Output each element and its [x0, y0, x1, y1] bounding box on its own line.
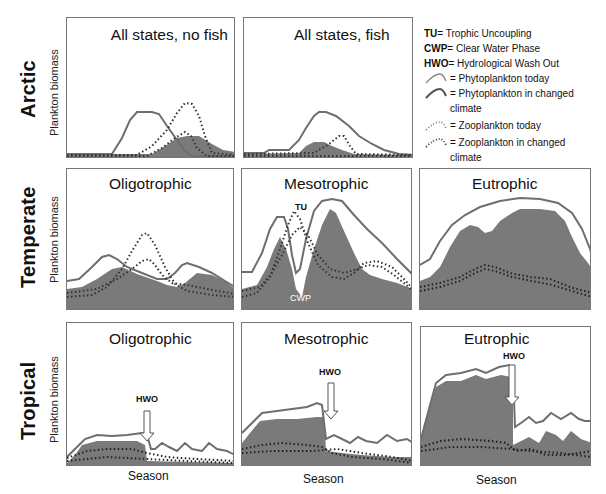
panel-temperate-mesotrophic: Mesotrophic TU CWP — [241, 168, 412, 310]
legend: TU = Trophic Uncoupling CWP = Clear Wate… — [424, 26, 604, 165]
legend-abbr-cwp: CWP = Clear Water Phase — [424, 41, 604, 56]
row-label-temperate: Temperate — [17, 187, 40, 288]
phyto-changed-fill — [420, 209, 591, 310]
light-dotted-line-icon — [424, 118, 450, 132]
panel-title: Mesotrophic — [284, 330, 368, 348]
legend-zoo-changed: = Zooplankton in changed climate — [424, 135, 604, 165]
panel-arctic-fish: All states, fish — [243, 17, 413, 158]
y-axis-label-temperate: Plankton biomass — [48, 196, 60, 283]
panel-title: All states, fish — [294, 26, 390, 44]
panel-arctic-no-fish: All states, no fish — [66, 17, 235, 158]
panel-title: Eutrophic — [464, 330, 529, 348]
thick-solid-line-icon — [424, 86, 450, 100]
x-axis-label-oligotrophic: Season — [128, 469, 169, 483]
legend-phyto-today: = Phytoplankton today — [424, 71, 604, 86]
panel-title: Oligotrophic — [109, 175, 192, 193]
panel-tropical-mesotrophic: Mesotrophic HWO — [241, 322, 412, 466]
panel-temperate-eutrophic: Eutrophic — [419, 168, 591, 310]
panel-tropical-oligotrophic: Oligotrophic HWO — [66, 322, 234, 466]
annotation-hwo: HWO — [136, 394, 158, 404]
hwo-arrow-icon — [324, 383, 338, 419]
thin-solid-line-icon — [424, 71, 450, 85]
panel-tropical-eutrophic: Eutrophic HWO — [420, 326, 591, 466]
legend-phyto-changed: = Phytoplankton in changed climate — [424, 86, 604, 116]
y-axis-label-tropical: Plankton biomass — [48, 356, 60, 443]
annotation-tu: TU — [295, 202, 307, 212]
x-axis-label-eutrophic: Season — [476, 473, 517, 487]
panel-title: Mesotrophic — [284, 175, 368, 193]
annotation-cwp: CWP — [290, 293, 311, 303]
dark-dotted-line-icon — [424, 135, 450, 149]
row-label-tropical: Tropical — [17, 362, 40, 440]
annotation-hwo: HWO — [319, 367, 341, 377]
phyto-changed-fill — [242, 417, 412, 466]
legend-abbr-hwo: HWO = Hydrological Wash Out — [424, 56, 604, 71]
phyto-changed-fill — [242, 209, 412, 310]
phyto-changed-fill — [67, 267, 234, 310]
annotation-hwo: HWO — [503, 351, 525, 361]
panel-temperate-oligotrophic: Oligotrophic — [66, 168, 234, 310]
legend-abbr-tu: TU = Trophic Uncoupling — [424, 26, 604, 41]
panel-title: Oligotrophic — [109, 330, 192, 348]
row-label-arctic: Arctic — [17, 60, 40, 118]
hwo-arrow-icon — [140, 411, 154, 441]
panel-title: All states, no fish — [111, 26, 228, 44]
x-axis-label-mesotrophic: Season — [303, 472, 344, 486]
panel-title: Eutrophic — [472, 175, 537, 193]
legend-zoo-today: = Zooplankton today — [424, 118, 604, 133]
phyto-changed-fill — [421, 375, 591, 466]
y-axis-label-arctic: Plankton biomass — [48, 49, 60, 136]
